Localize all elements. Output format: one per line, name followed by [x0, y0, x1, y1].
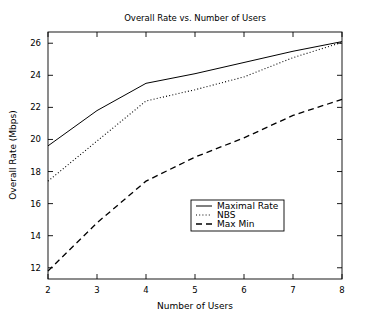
x-tick-label: 8 — [339, 285, 344, 295]
y-axis-ticks: 1214161820222426 — [30, 38, 342, 273]
y-tick-label: 26 — [30, 38, 41, 48]
x-axis-title: Number of Users — [157, 301, 233, 311]
line-chart: Overall Rate vs. Number of Users 1214161… — [0, 0, 370, 317]
y-tick-label: 22 — [30, 102, 41, 112]
x-axis-ticks: 2345678 — [45, 32, 344, 295]
y-tick-label: 14 — [30, 231, 41, 241]
y-axis-title: Overall Rate (Mbps) — [8, 110, 18, 199]
chart-figure: Overall Rate vs. Number of Users 1214161… — [0, 0, 370, 317]
x-tick-label: 6 — [241, 285, 246, 295]
y-tick-label: 24 — [30, 70, 41, 80]
series-line-nbs — [48, 42, 342, 181]
series-line-max-min — [48, 99, 342, 271]
chart-title: Overall Rate vs. Number of Users — [124, 13, 266, 23]
data-series-group — [48, 42, 342, 271]
chart-title-group: Overall Rate vs. Number of Users — [124, 13, 266, 23]
x-tick-label: 7 — [290, 285, 295, 295]
x-tick-label: 3 — [94, 285, 99, 295]
series-line-maximal-rate — [48, 42, 342, 146]
plot-border — [48, 32, 342, 279]
plot-frame — [48, 32, 342, 279]
legend[interactable]: Maximal RateNBSMax Min — [191, 200, 284, 231]
y-tick-label: 16 — [30, 199, 41, 209]
legend-label: Max Min — [217, 219, 254, 229]
x-tick-label: 5 — [192, 285, 197, 295]
y-tick-label: 18 — [30, 167, 41, 177]
x-tick-label: 2 — [45, 285, 50, 295]
x-tick-label: 4 — [143, 285, 148, 295]
y-tick-label: 12 — [30, 263, 41, 273]
y-tick-label: 20 — [30, 134, 41, 144]
